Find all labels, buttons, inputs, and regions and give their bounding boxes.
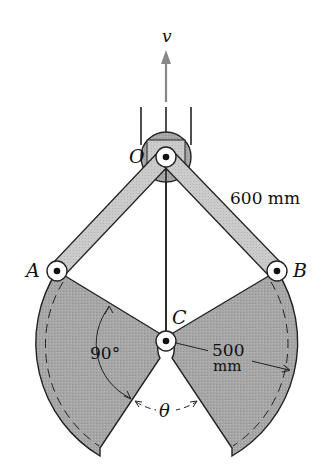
radius-unit-label: mm — [213, 357, 241, 375]
velocity-label: v — [162, 26, 172, 46]
link-length-label: 600 mm — [230, 188, 300, 208]
pin-b — [267, 261, 287, 281]
label-o: O — [129, 145, 145, 167]
velocity-arrow — [161, 50, 171, 102]
grab-mechanism-diagram: v — [0, 0, 324, 473]
link-ob — [160, 150, 283, 278]
label-b: B — [292, 259, 307, 281]
pin-o — [156, 147, 176, 167]
label-c: C — [172, 306, 187, 328]
label-a: A — [24, 259, 40, 281]
angle-90-label: 90° — [90, 343, 120, 363]
angle-theta-label: θ — [159, 400, 170, 421]
link-oa — [51, 150, 172, 278]
pin-c — [156, 331, 176, 351]
pin-a — [47, 261, 67, 281]
